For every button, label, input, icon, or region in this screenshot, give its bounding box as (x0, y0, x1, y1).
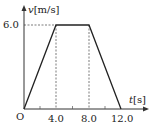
x-tick-label-8: 8.0 (81, 114, 97, 124)
x-tick-label-4: 4.0 (48, 114, 64, 124)
y-axis-label: v[m/s] (28, 5, 59, 15)
velocity-line (24, 25, 121, 109)
y-axis-arrow-icon (22, 5, 27, 11)
x-axis-arrow-icon (143, 107, 149, 112)
y-tick-label-6: 6.0 (3, 20, 19, 30)
x-tick-label-12: 12.0 (111, 114, 133, 124)
x-axis-label: t[s] (129, 95, 146, 105)
origin-label: O (16, 112, 24, 122)
